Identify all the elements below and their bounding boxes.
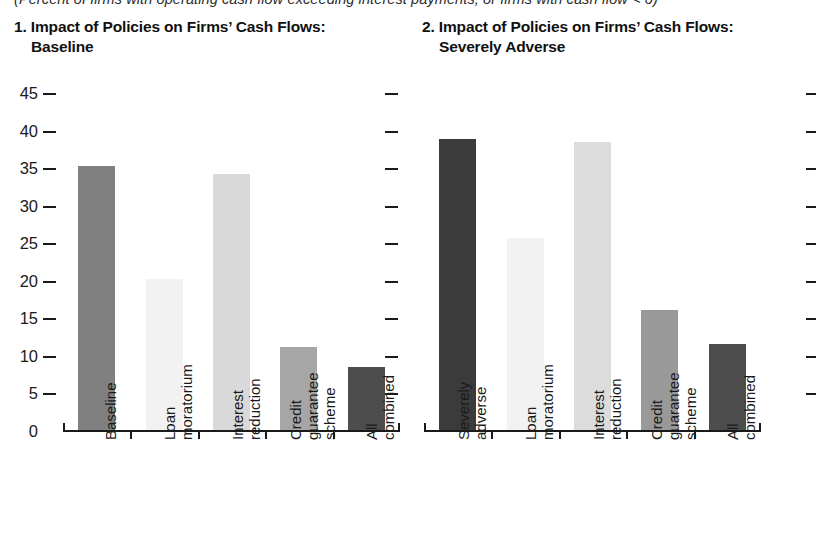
panel-1-y-axis-left-stub xyxy=(63,423,65,432)
panel-1-ytick-25: 25 xyxy=(4,235,38,252)
category-label-line: Severely xyxy=(455,382,472,440)
panel-1-ytick-labels: 051015202530354045 xyxy=(4,92,38,432)
panel-1-tickmark-35 xyxy=(43,168,56,170)
panel-1-tickmark-5 xyxy=(43,393,56,395)
panel-1-ytick-45: 45 xyxy=(4,85,38,102)
panel-2-tickmark-35 xyxy=(806,168,816,170)
panel-1-ytick-30: 30 xyxy=(4,197,38,214)
category-label-line: Loan xyxy=(161,364,178,440)
category-label-loan-moratorium: Loanmoratorium xyxy=(161,440,237,474)
category-label-line: scheme xyxy=(682,372,699,440)
panel-2-title-line2: Severely Adverse xyxy=(422,37,802,57)
category-label-line: guarantee xyxy=(665,372,682,440)
panel-1-tickmark-10 xyxy=(43,356,56,358)
category-label-line: moratorium xyxy=(539,364,556,440)
category-label-line: Credit xyxy=(648,372,665,440)
category-label-severely-adverse: Severelyadverse xyxy=(455,440,513,474)
category-label-line: adverse xyxy=(472,382,489,440)
panel-2-number: 2. xyxy=(422,18,435,35)
panel-1-tickmark-20 xyxy=(43,281,56,283)
panel-2-y-axis-right-stub xyxy=(759,423,761,432)
category-label-all-combined: Allcombined xyxy=(724,440,789,474)
panel-2-tickmark-40 xyxy=(806,131,816,133)
panel-1-ytick-20: 20 xyxy=(4,273,38,290)
panel-1-title-line2: Baseline xyxy=(14,37,394,57)
panel-1-title-line1: Impact of Policies on Firms’ Cash Flows: xyxy=(31,18,326,35)
panel-2-tickmark-30 xyxy=(806,206,816,208)
panel-1-ticks-left xyxy=(43,92,63,432)
category-label-credit-guarantee-scheme: Creditguaranteescheme xyxy=(287,440,355,491)
chart-panels: 1. Impact of Policies on Firms’ Cash Flo… xyxy=(0,0,816,557)
panel-2-y-axis-left-stub xyxy=(424,423,426,432)
category-label-baseline: Baseline xyxy=(102,440,160,457)
panel-1-tickmark-30 xyxy=(43,206,56,208)
category-label-interest-reduction: Interestreduction xyxy=(590,440,652,474)
category-label-line: Baseline xyxy=(102,382,119,440)
panel-2-tickmark-5 xyxy=(806,393,816,395)
panel-1-tickmark-45 xyxy=(43,93,56,95)
panel-1-number: 1. xyxy=(14,18,27,35)
category-label-line: reduction xyxy=(246,378,263,440)
category-label-line: Credit xyxy=(287,372,304,440)
panel-1-ytick-35: 35 xyxy=(4,160,38,177)
panel-2-tickmark-45 xyxy=(806,93,816,95)
category-label-line: guarantee xyxy=(304,372,321,440)
category-label-line: Interest xyxy=(590,378,607,440)
panel-2-tickmark-25 xyxy=(806,243,816,245)
panel-2-tickmark-20 xyxy=(806,281,816,283)
panel-1-ytick-5: 5 xyxy=(4,385,38,402)
panel-2-category-labels: SeverelyadverseLoanmoratoriumInterestred… xyxy=(424,436,761,556)
panel-1-category-labels: BaselineLoanmoratoriumInterestreductionC… xyxy=(63,436,400,556)
category-label-line: Loan xyxy=(522,364,539,440)
panel-1-tickmark-25 xyxy=(43,243,56,245)
category-label-loan-moratorium: Loanmoratorium xyxy=(522,440,598,474)
chart-panel-baseline: 1. Impact of Policies on Firms’ Cash Flo… xyxy=(0,0,408,557)
category-label-line: scheme xyxy=(321,372,338,440)
chart-panel-severely-adverse: 2. Impact of Policies on Firms’ Cash Flo… xyxy=(408,0,816,557)
panel-2-title: 2. Impact of Policies on Firms’ Cash Flo… xyxy=(422,17,802,57)
panel-1-ytick-10: 10 xyxy=(4,348,38,365)
category-label-credit-guarantee-scheme: Creditguaranteescheme xyxy=(648,440,716,491)
panel-1-y-axis-right-stub xyxy=(398,423,400,432)
panel-2-title-line1: Impact of Policies on Firms’ Cash Flows: xyxy=(439,18,734,35)
panel-1-ytick-40: 40 xyxy=(4,122,38,139)
category-label-line: reduction xyxy=(607,378,624,440)
category-label-line: Interest xyxy=(229,378,246,440)
panel-1-ytick-15: 15 xyxy=(4,310,38,327)
category-label-line: combined xyxy=(380,375,397,440)
panel-1-title: 1. Impact of Policies on Firms’ Cash Flo… xyxy=(14,17,394,57)
panel-2-ticks-left xyxy=(806,92,816,432)
category-label-line: All xyxy=(363,375,380,440)
category-label-line: All xyxy=(724,375,741,440)
panel-2-tickmark-15 xyxy=(806,318,816,320)
panel-1-tickmark-40 xyxy=(43,131,56,133)
panel-1-ytick-0: 0 xyxy=(4,423,38,440)
category-label-line: moratorium xyxy=(178,364,195,440)
category-label-line: combined xyxy=(741,375,758,440)
category-label-interest-reduction: Interestreduction xyxy=(229,440,291,474)
panel-2-tickmark-10 xyxy=(806,356,816,358)
panel-1-tickmark-15 xyxy=(43,318,56,320)
